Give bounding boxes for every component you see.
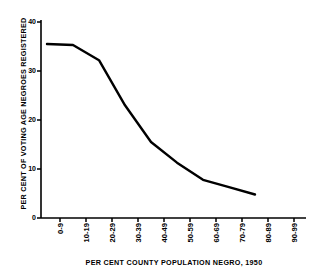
- y-axis-title: PER CENT OF VOTING AGE NEGROES REGISTERE…: [19, 14, 28, 214]
- x-tick-label-50-59: 50-59: [185, 223, 195, 263]
- data-series-line: [47, 44, 255, 194]
- y-tick-label-30: 30: [22, 67, 36, 76]
- y-tick-label-40: 40: [22, 18, 36, 27]
- x-tick-label-70-79: 70-79: [237, 223, 247, 263]
- x-tick-label-90-99: 90-99: [289, 223, 299, 263]
- y-tick-label-10: 10: [22, 165, 36, 174]
- x-tick-label-20-29: 20-29: [107, 223, 117, 263]
- y-tick-label-0: 0: [22, 214, 36, 223]
- chart-figure: PER CENT OF VOTING AGE NEGROES REGISTERE…: [0, 0, 322, 276]
- x-tick-label-60-69: 60-69: [211, 223, 221, 263]
- x-tick-label-10-19: 10-19: [81, 223, 91, 263]
- x-tick-label-0-9: 0-9: [55, 223, 65, 263]
- x-tick-label-80-89: 80-89: [263, 223, 273, 263]
- x-tick-label-40-49: 40-49: [159, 223, 169, 263]
- x-tick-label-30-39: 30-39: [133, 223, 143, 263]
- y-tick-label-20: 20: [22, 116, 36, 125]
